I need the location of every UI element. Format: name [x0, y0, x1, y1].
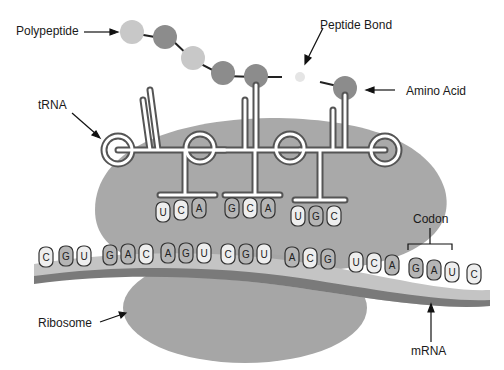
svg-text:C: C	[177, 205, 184, 216]
svg-text:A: A	[431, 265, 438, 276]
nucleotide-base: U	[197, 243, 211, 263]
svg-text:G: G	[242, 249, 250, 260]
svg-text:C: C	[306, 253, 313, 264]
nucleotide-base: C	[367, 253, 381, 273]
amino-acid-bead	[120, 20, 144, 44]
nucleotide-base: U	[156, 202, 170, 222]
svg-text:C: C	[246, 203, 253, 214]
svg-text:A: A	[289, 252, 296, 263]
nucleotide-base: C	[327, 206, 341, 226]
nucleotide-base: A	[121, 244, 135, 264]
nucleotide-base: A	[161, 243, 175, 263]
amino-acid-bead	[153, 25, 177, 49]
svg-text:U: U	[294, 211, 301, 222]
svg-text:C: C	[142, 249, 149, 260]
svg-text:U: U	[200, 248, 207, 259]
amino-acid-bead	[211, 61, 235, 85]
nucleotide-base: A	[192, 198, 206, 218]
nucleotide-base: G	[103, 245, 117, 265]
nucleotide-base: G	[309, 206, 323, 226]
svg-text:C: C	[224, 249, 231, 260]
svg-text:A: A	[125, 249, 132, 260]
nucleotide-base: A	[427, 260, 441, 280]
label-peptide-bond: Peptide Bond	[320, 18, 392, 32]
svg-text:G: G	[412, 263, 420, 274]
label-mrna: mRNA	[411, 344, 446, 358]
svg-text:G: G	[62, 251, 70, 262]
nucleotide-base: C	[221, 244, 235, 264]
svg-text:U: U	[352, 257, 359, 268]
nucleotide-base: U	[445, 262, 459, 282]
svg-text:A: A	[165, 248, 172, 259]
svg-text:G: G	[182, 248, 190, 259]
nucleotide-base: G	[239, 244, 253, 264]
nucleotide-base: A	[285, 247, 299, 267]
svg-text:U: U	[159, 207, 166, 218]
nucleotide-base: A	[261, 198, 275, 218]
svg-text:A: A	[196, 203, 203, 214]
svg-text:G: G	[312, 211, 320, 222]
svg-text:C: C	[330, 211, 337, 222]
nucleotide-base: A	[385, 255, 399, 275]
svg-text:G: G	[228, 203, 236, 214]
svg-text:U: U	[260, 249, 267, 260]
nucleotide-base: U	[77, 246, 91, 266]
label-codon: Codon	[413, 212, 448, 226]
nucleotide-base: C	[467, 264, 481, 284]
svg-text:U: U	[448, 267, 455, 278]
svg-text:U: U	[80, 251, 87, 262]
svg-text:G: G	[106, 250, 114, 261]
nucleotide-base: G	[225, 198, 239, 218]
nucleotide-base: C	[39, 247, 53, 267]
nucleotide-base: U	[257, 244, 271, 264]
label-ribosome: Ribosome	[38, 316, 92, 330]
nucleotide-base: G	[321, 249, 335, 269]
amino-acid-bead	[181, 46, 205, 70]
nucleotide-base: G	[59, 246, 73, 266]
svg-text:C: C	[470, 269, 477, 280]
svg-text:C: C	[370, 258, 377, 269]
nucleotide-base: C	[303, 248, 317, 268]
nucleotide-base: G	[409, 258, 423, 278]
nucleotide-base: G	[179, 243, 193, 263]
translation-diagram: CGUGACAGUCGUACGUCAGAUCUCAGCAUGC	[0, 0, 504, 370]
label-amino-acid: Amino Acid	[406, 84, 466, 98]
svg-text:A: A	[265, 203, 272, 214]
nucleotide-base: C	[243, 198, 257, 218]
svg-text:C: C	[42, 252, 49, 263]
nucleotide-base: C	[139, 244, 153, 264]
label-trna: tRNA	[38, 98, 67, 112]
nucleotide-base: U	[349, 252, 363, 272]
nucleotide-base: C	[174, 200, 188, 220]
svg-text:A: A	[389, 260, 396, 271]
svg-text:G: G	[324, 254, 332, 265]
label-polypeptide: Polypeptide	[16, 24, 79, 38]
nucleotide-base: U	[291, 206, 305, 226]
